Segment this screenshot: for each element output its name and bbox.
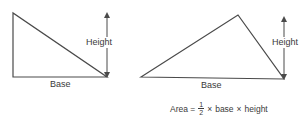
area-formula: Area = 1 2 × base × height [170, 101, 268, 116]
right-height-label: Height [272, 37, 298, 48]
fraction-numerator: 1 [198, 101, 204, 109]
right-obtuse-triangle [141, 15, 284, 79]
formula-base-term: base [215, 104, 233, 114]
right-base-label: Base [201, 81, 222, 90]
formula-lhs: Area = [170, 104, 195, 114]
left-base-label: Base [50, 80, 71, 89]
fraction-denominator: 2 [199, 109, 203, 116]
times-sign: × [207, 104, 212, 114]
left-height-label: Height [86, 37, 112, 48]
one-half-fraction: 1 2 [198, 101, 204, 116]
formula-height-term: height [245, 104, 268, 114]
times-sign: × [237, 104, 242, 114]
